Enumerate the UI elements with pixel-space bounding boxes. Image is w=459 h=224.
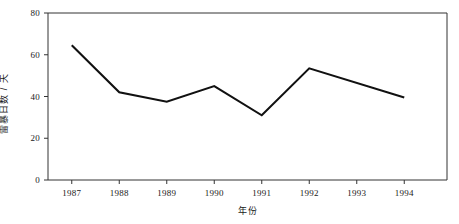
y-tick-label: 80 bbox=[0, 8, 40, 18]
y-tick-label: 20 bbox=[0, 133, 40, 143]
x-tick-label: 1994 bbox=[395, 188, 414, 198]
x-axis-title: 年份 bbox=[238, 204, 258, 217]
x-tick-label: 1988 bbox=[110, 188, 129, 198]
x-tick-label: 1987 bbox=[62, 188, 81, 198]
y-tick-label: 0 bbox=[0, 175, 40, 185]
x-tick-label: 1992 bbox=[300, 188, 319, 198]
x-tick-label: 1993 bbox=[347, 188, 366, 198]
chart-figure: 020406080 198719881989199019911992199319… bbox=[0, 0, 459, 224]
y-axis-title: 雷暴日数 / 天 bbox=[0, 73, 10, 134]
x-tick-label: 1990 bbox=[205, 188, 224, 198]
x-axis-ticks bbox=[72, 180, 405, 184]
y-axis-ticks bbox=[44, 13, 48, 180]
x-tick-label: 1991 bbox=[252, 188, 271, 198]
plot-frame bbox=[48, 13, 447, 180]
x-tick-label: 1989 bbox=[157, 188, 176, 198]
y-tick-label: 60 bbox=[0, 50, 40, 60]
data-series-line bbox=[72, 45, 405, 115]
